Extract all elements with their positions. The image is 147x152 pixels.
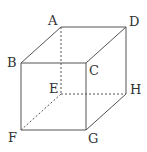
edge-ab (21, 27, 61, 63)
cube-diagram: A D B C E H F G (0, 0, 147, 152)
cube-drawing (0, 0, 147, 152)
vertex-label-f: F (8, 131, 17, 144)
vertex-label-a: A (48, 14, 57, 27)
vertex-label-e: E (49, 82, 59, 95)
hidden-edge-ef (21, 94, 61, 130)
edge-cd (86, 27, 126, 63)
vertex-label-h: H (130, 83, 141, 96)
vertex-label-g: G (88, 132, 98, 145)
edge-gh (86, 94, 126, 130)
vertex-label-b: B (7, 56, 17, 69)
vertex-label-d: D (129, 15, 139, 28)
vertex-label-c: C (89, 64, 99, 77)
